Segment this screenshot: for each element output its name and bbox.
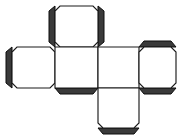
glue-tab-top-face-right (98, 6, 104, 47)
glue-tab-left-face-left (6, 47, 12, 88)
glue-tab-back-face-top (139, 41, 176, 47)
cube-face-left (12, 47, 55, 88)
glue-tab-front-face-bottom (55, 88, 98, 94)
cube-face-right (98, 47, 139, 88)
glue-tab-back-face-bottom (139, 88, 176, 94)
glue-tab-top-face-left (49, 6, 55, 47)
cube-net-figure: Cube net Line drawing of an unfolded cub… (0, 0, 185, 135)
cube-face-top (55, 6, 98, 47)
cube-face-back (139, 47, 176, 88)
cube-face-front (55, 47, 98, 88)
glue-tab-bottom-face-bottom (98, 128, 139, 134)
cube-face-bottom (98, 88, 139, 128)
cube-net-drawing (0, 0, 185, 135)
